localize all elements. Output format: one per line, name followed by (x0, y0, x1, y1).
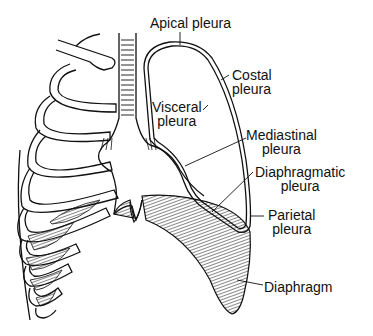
label-text: Costal (232, 68, 272, 82)
label-apical-pleura: Apical pleura (150, 16, 231, 30)
label-diaphragm: Diaphragm (264, 280, 332, 294)
label-text: Apical pleura (150, 16, 231, 30)
clavicle (56, 34, 115, 70)
label-text: Visceral (152, 100, 202, 114)
label-text: Diaphragmatic (255, 165, 345, 179)
label-text: Parietal (268, 208, 315, 222)
label-text: pleura (255, 179, 345, 193)
label-text: pleura (268, 222, 315, 236)
label-costal-pleura: Costal pleura (232, 68, 272, 96)
label-parietal-pleura: Parietal pleura (268, 208, 315, 236)
label-text: Mediastinal (246, 128, 317, 142)
label-text: Diaphragm (264, 280, 332, 294)
label-mediastinal-pleura: Mediastinal pleura (246, 128, 317, 156)
label-diaphragmatic-pleura: Diaphragmatic pleura (255, 165, 345, 193)
label-text: pleura (152, 114, 202, 128)
label-text: pleura (246, 142, 317, 156)
label-text: pleura (232, 82, 272, 96)
label-visceral-pleura: Visceral pleura (152, 100, 202, 128)
